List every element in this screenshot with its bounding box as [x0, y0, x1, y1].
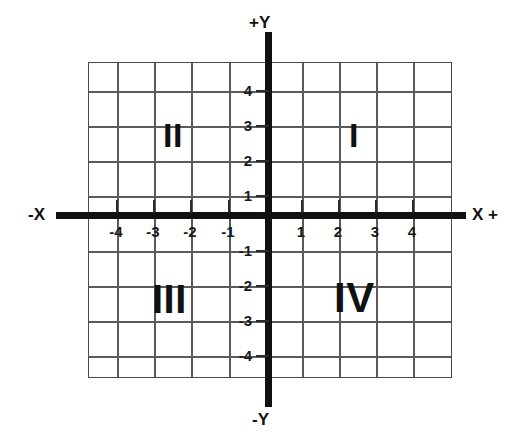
x-tick-label: 4 — [397, 224, 427, 239]
grid-line-vertical — [376, 63, 378, 377]
grid-line-vertical — [191, 63, 193, 377]
y-tick-mark — [256, 125, 269, 127]
quadrant-label-iii: III — [152, 279, 187, 319]
x-tick-mark — [375, 200, 377, 213]
coordinate-plane-figure: -4 -3 -2 -1 1 2 3 4 4 3 2 1 -1 -2 -3 -4 … — [0, 0, 520, 440]
x-tick-mark — [116, 200, 118, 213]
quadrant-label-ii: II — [163, 118, 183, 152]
y-tick-mark — [256, 355, 269, 357]
y-tick-mark — [256, 160, 269, 162]
y-tick-mark — [256, 250, 269, 252]
quadrant-label-i: I — [349, 118, 359, 152]
x-tick-mark — [338, 200, 340, 213]
x-tick-mark — [301, 200, 303, 213]
positive-y-axis-label: +Y — [249, 14, 270, 31]
x-tick-label: -1 — [213, 224, 243, 239]
y-tick-mark — [256, 285, 269, 287]
x-tick-label: 2 — [323, 224, 353, 239]
x-tick-label: -2 — [175, 224, 205, 239]
x-tick-mark — [412, 200, 414, 213]
negative-y-axis-label: -Y — [252, 411, 269, 428]
x-tick-mark — [153, 200, 155, 213]
x-tick-label: 3 — [360, 224, 390, 239]
negative-x-axis-label: -X — [28, 206, 45, 223]
y-tick-label: -2 — [222, 278, 252, 293]
grid-line-vertical — [117, 63, 119, 377]
x-axis — [56, 212, 466, 219]
y-tick-label: -1 — [222, 243, 252, 258]
y-axis — [265, 32, 272, 407]
y-tick-label: 2 — [222, 153, 252, 168]
grid-line-vertical — [413, 63, 415, 377]
y-tick-label: 3 — [222, 118, 252, 133]
positive-x-axis-label: X + — [472, 206, 498, 223]
y-tick-label: -4 — [222, 348, 252, 363]
x-tick-label: -4 — [101, 224, 131, 239]
quadrant-label-iv: IV — [334, 277, 375, 319]
grid-line-vertical — [154, 63, 156, 377]
y-tick-mark — [256, 320, 269, 322]
x-tick-mark — [190, 200, 192, 213]
grid-line-vertical — [339, 63, 341, 377]
x-tick-label: 1 — [286, 224, 316, 239]
y-tick-label: 4 — [222, 83, 252, 98]
x-tick-label: -3 — [138, 224, 168, 239]
y-tick-label: -3 — [222, 313, 252, 328]
grid-line-vertical — [229, 63, 231, 377]
y-tick-mark — [256, 195, 269, 197]
grid-line-vertical — [302, 63, 304, 377]
y-tick-mark — [256, 90, 269, 92]
y-tick-label: 1 — [222, 188, 252, 203]
